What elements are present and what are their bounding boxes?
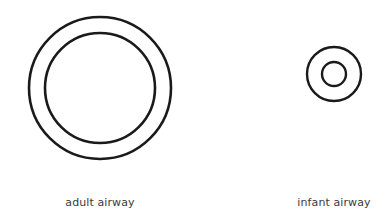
- adult-airway-label: adult airway: [65, 196, 134, 209]
- infant-airway-figure: [307, 47, 361, 101]
- airway-comparison-diagram: [0, 0, 385, 224]
- adult-airway-outer-wall: [29, 17, 171, 159]
- adult-airway-figure: [29, 17, 171, 159]
- infant-airway-label: infant airway: [297, 196, 370, 209]
- infant-airway-outer-wall: [307, 47, 361, 101]
- adult-airway-inner-lumen: [45, 33, 155, 143]
- infant-airway-inner-lumen: [322, 62, 346, 86]
